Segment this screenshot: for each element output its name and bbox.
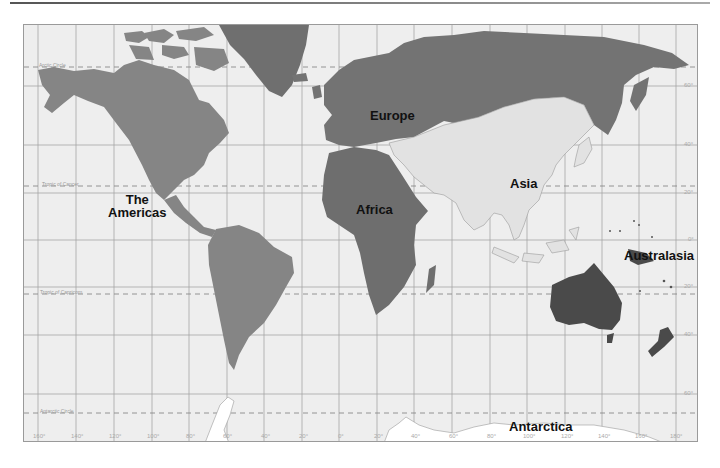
lon-label: 180° xyxy=(670,433,682,439)
antarctic-circle-label: Antarctic Circle xyxy=(40,408,74,414)
europe-label: Europe xyxy=(370,109,415,122)
map-canvas xyxy=(24,25,698,442)
south-america-shape xyxy=(208,225,294,370)
lat-label-40n: 40° xyxy=(684,141,693,147)
americas-label: The Americas xyxy=(108,193,167,219)
lat-label-0: 0° xyxy=(688,236,694,242)
lat-label-20s: 20° xyxy=(684,283,693,289)
top-rule xyxy=(10,2,710,4)
lon-label: 120° xyxy=(109,433,121,439)
lon-label: 40° xyxy=(261,433,270,439)
lon-label: 140° xyxy=(71,433,83,439)
lat-label-40s: 40° xyxy=(684,331,693,337)
australia-shape xyxy=(550,263,622,330)
lon-label: 120° xyxy=(561,433,573,439)
lat-label-60n: 60° xyxy=(684,82,693,88)
central-america-shape xyxy=(164,195,216,237)
australasia-label: Australasia xyxy=(624,249,694,262)
tropic-of-cancer-label: Tropic of Cancer xyxy=(42,181,79,187)
lon-label: 60° xyxy=(449,433,458,439)
asia-label: Asia xyxy=(510,177,537,190)
lon-label: 100° xyxy=(523,433,535,439)
lon-label: 20° xyxy=(299,433,308,439)
lon-label: 160° xyxy=(635,433,647,439)
lon-label: 160° xyxy=(33,433,45,439)
lon-label: 20° xyxy=(374,433,383,439)
lon-label: 40° xyxy=(411,433,420,439)
kamchatka-shape xyxy=(630,77,649,111)
lon-label: 140° xyxy=(598,433,610,439)
north-america-shape xyxy=(38,60,229,200)
tropic-of-capricorn-label: Tropic of Capricorn xyxy=(40,289,82,295)
lat-label-20n: 20° xyxy=(684,189,693,195)
antarctica-label: Antarctica xyxy=(509,420,573,433)
lon-label: 100° xyxy=(147,433,159,439)
lon-label: 80° xyxy=(186,433,195,439)
americas-label-line2: Americas xyxy=(108,206,167,219)
arctic-circle-label: Arctic Circle xyxy=(39,62,66,68)
lon-label: 0° xyxy=(338,433,344,439)
africa-label: Africa xyxy=(356,203,393,216)
indonesia-islands xyxy=(492,227,579,263)
tasmania-shape xyxy=(607,333,614,343)
madagascar-shape xyxy=(426,265,436,293)
lon-label: 80° xyxy=(487,433,496,439)
new-zealand-shape xyxy=(648,327,674,357)
lat-label-60s: 60° xyxy=(684,390,693,396)
lon-label: 60° xyxy=(223,433,232,439)
world-map: The Americas Europe Africa Asia Australa… xyxy=(23,24,698,442)
